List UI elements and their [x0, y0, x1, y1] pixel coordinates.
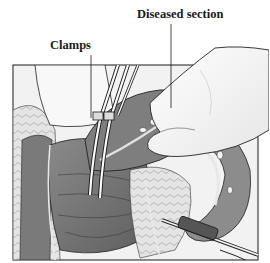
label-clamps: Clamps: [50, 38, 91, 53]
tissue-band: [20, 135, 52, 260]
label-diseased-section: Diseased section: [137, 7, 223, 22]
surgical-illustration: [0, 0, 269, 263]
hand: [148, 47, 270, 157]
